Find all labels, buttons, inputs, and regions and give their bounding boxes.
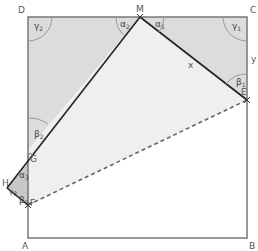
label-a: A [22, 241, 29, 251]
label-g: G [30, 154, 37, 164]
label-f: F [30, 198, 35, 208]
label-y: y [251, 54, 257, 64]
label-b: B [249, 241, 255, 251]
label-m: M [136, 4, 144, 14]
label-c: C [250, 5, 256, 15]
folded-square-diagram: D M C E G H F A B x y γ2 α2 α1 γ1 β1 β2 … [0, 0, 258, 251]
label-e: E [241, 87, 247, 97]
label-h: H [2, 178, 9, 188]
label-x: x [188, 60, 194, 70]
angle-gamma3: γ3 [9, 188, 17, 197]
label-d: D [18, 5, 25, 15]
